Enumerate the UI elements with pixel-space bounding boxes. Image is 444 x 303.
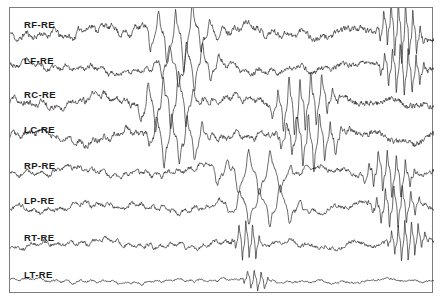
eeg-traces-plot	[10, 8, 434, 294]
channel-label-lf-re: LF-RE	[24, 56, 54, 66]
eeg-trace-lt-re	[10, 270, 434, 291]
channel-label-rc-re: RC-RE	[24, 90, 56, 100]
eeg-chart-frame: RF-RELF-RERC-RELC-RERP-RELP-RERT-RELT-RE	[9, 7, 433, 293]
channel-label-lc-re: LC-RE	[24, 125, 55, 135]
eeg-trace-lp-re	[10, 185, 434, 227]
channel-label-rp-re: RP-RE	[24, 161, 56, 171]
eeg-trace-lc-re	[10, 114, 434, 172]
channel-label-rt-re: RT-RE	[24, 233, 55, 243]
eeg-trace-lf-re	[10, 42, 434, 95]
eeg-figure: RF-RELF-RERC-RELC-RERP-RELP-RERT-RELT-RE	[0, 0, 444, 303]
eeg-trace-rp-re	[10, 149, 434, 197]
channel-label-rf-re: RF-RE	[24, 20, 55, 30]
channel-label-lp-re: LP-RE	[24, 196, 55, 206]
eeg-trace-rt-re	[10, 220, 434, 261]
channel-label-lt-re: LT-RE	[24, 270, 53, 280]
eeg-trace-rc-re	[10, 71, 434, 135]
